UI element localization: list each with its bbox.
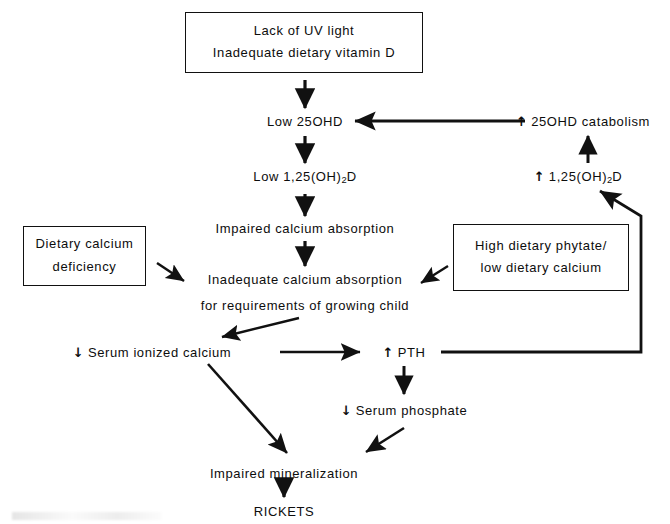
node-high-1-25-oh-2-d: ↑ 1,25(OH)2D (534, 170, 623, 186)
edge-inadequate-to-serum-calcium (222, 318, 299, 337)
node-for-requirements-of-growing-child: for requirements of growing child (201, 299, 409, 312)
node-low-1-25-oh-2-d: Low 1,25(OH)2D (253, 170, 356, 186)
node-low-1-25-oh-2-d-prefix: Low 1,25(OH) (253, 169, 341, 184)
node-25ohd-catabolism-label: 25OHD catabolism (531, 114, 650, 129)
down-arrow-icon: ↓ (73, 345, 84, 360)
box-dietary-calcium-deficiency-label: Dietary calcium deficiency (36, 233, 134, 279)
box-high-dietary-phytate-line1: High dietary phytate/ (475, 238, 607, 253)
box-high-dietary-phytate-line2: low dietary calcium (480, 261, 601, 276)
node-serum-phosphate-label: Serum phosphate (356, 403, 468, 418)
node-inadequate-calcium-absorption: Inadequate calcium absorption (208, 273, 402, 286)
node-pth-label: PTH (398, 345, 426, 360)
flowchart-diagram: Lack of UV light Inadequate dietary vita… (0, 0, 670, 524)
node-impaired-mineralization: Impaired mineralization (210, 467, 358, 480)
up-arrow-icon: ↑ (383, 345, 394, 360)
box-high-dietary-phytate-label: High dietary phytate/ low dietary calciu… (475, 235, 607, 281)
node-rickets: RICKETS (254, 505, 315, 518)
box-lack-of-uv-light-label: Lack of UV light Inadequate dietary vita… (213, 20, 395, 66)
box-dietary-calcium-deficiency-line1: Dietary calcium (36, 236, 134, 251)
node-serum-phosphate: ↓ Serum phosphate (341, 404, 468, 417)
box-high-dietary-phytate: High dietary phytate/ low dietary calciu… (453, 224, 629, 291)
node-impaired-calcium-absorption: Impaired calcium absorption (216, 222, 395, 235)
box-lack-of-uv-light-line1: Lack of UV light (254, 23, 355, 38)
box-dietary-calcium-deficiency-line2: deficiency (53, 259, 117, 274)
box-lack-of-uv-light-line2: Inadequate dietary vitamin D (213, 46, 395, 61)
node-serum-ionized-calcium: ↓ Serum ionized calcium (73, 346, 232, 359)
node-pth: ↑ PTH (383, 346, 426, 359)
node-25ohd-catabolism: ↑ 25OHD catabolism (516, 115, 650, 128)
edge-phytate-to-inadequate (421, 266, 448, 283)
edge-serum-calcium-to-mineralization (208, 364, 287, 453)
up-arrow-icon: ↑ (534, 169, 545, 184)
box-dietary-calcium-deficiency: Dietary calcium deficiency (23, 226, 146, 286)
box-lack-of-uv-light: Lack of UV light Inadequate dietary vita… (185, 12, 423, 73)
edge-phosphate-to-mineralization (366, 428, 404, 452)
node-high-1-25-oh-2-d-suffix: D (612, 169, 622, 184)
down-arrow-icon: ↓ (341, 403, 352, 418)
node-low-25ohd: Low 25OHD (267, 115, 343, 128)
page-caption-smudge (12, 512, 162, 520)
edge-dietary-deficiency-to-inadequate (157, 263, 184, 281)
node-high-1-25-oh-2-d-prefix: 1,25(OH) (549, 169, 607, 184)
node-serum-ionized-calcium-label: Serum ionized calcium (88, 345, 231, 360)
up-arrow-icon: ↑ (516, 114, 527, 129)
node-low-1-25-oh-2-d-suffix: D (347, 169, 357, 184)
